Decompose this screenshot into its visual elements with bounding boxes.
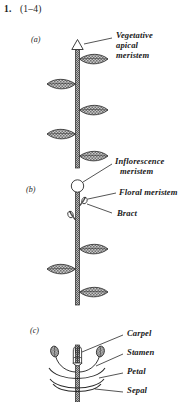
stamen-right (79, 345, 105, 372)
label-petal: Petal (127, 367, 146, 377)
label-inflorescence-meristem-line2: meristem (120, 167, 153, 177)
stamen-left (50, 345, 76, 372)
stem-b (75, 190, 79, 305)
label-floral-meristem: Floral meristem (119, 188, 178, 198)
botany-diagram (0, 0, 183, 402)
panel-label-b: (b) (26, 186, 35, 195)
panel-label-a: (a) (31, 36, 40, 45)
leader-petal (99, 373, 123, 378)
leader-bract (87, 204, 112, 213)
leader-floral-meristem (88, 193, 116, 199)
stem-a (75, 48, 79, 168)
label-carpel: Carpel (127, 329, 151, 339)
leader-sepal (95, 389, 123, 392)
leader-inflorescence-meristem (83, 164, 112, 182)
panel-a-drawing (47, 38, 112, 168)
leaf-b-1 (80, 244, 109, 254)
leaf-a-2 (47, 79, 76, 89)
figure-root: 1. (1–4) (0, 0, 183, 402)
leaf-a-5 (80, 151, 109, 161)
leaf-a-1 (80, 54, 109, 64)
panel-c-drawing (49, 335, 123, 402)
leader-vegetative-apical-meristem (84, 38, 112, 44)
leaf-a-3 (80, 105, 109, 115)
carpel (73, 346, 82, 365)
inflorescence-meristem-circle (71, 180, 83, 192)
leaf-a-4 (47, 129, 76, 139)
panel-label-c: (c) (30, 327, 39, 336)
leaf-b-3 (80, 287, 109, 297)
label-bract: Bract (117, 209, 137, 219)
label-sepal: Sepal (127, 386, 147, 396)
leaf-b-2 (47, 264, 76, 274)
floral-meristem-bud-2 (67, 210, 76, 220)
panel-b-drawing (47, 164, 116, 305)
label-vegetative-apical-meristem-line3: meristem (116, 51, 149, 61)
label-stamen: Stamen (127, 348, 154, 358)
vegetative-apical-meristem-arrowhead (72, 40, 83, 50)
